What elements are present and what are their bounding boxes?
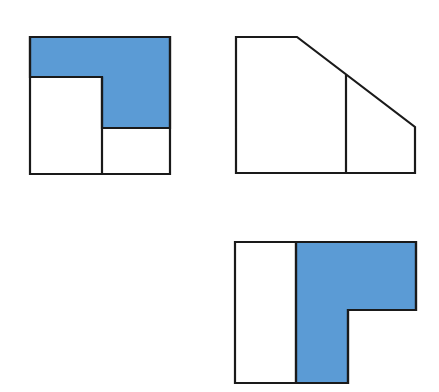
diagram-canvas: [0, 0, 439, 392]
top-view: [235, 242, 416, 383]
top-view-shaded-face: [296, 242, 416, 383]
side-view: [236, 37, 415, 173]
front-view: [30, 37, 170, 174]
three-view-diagram: [0, 0, 439, 392]
